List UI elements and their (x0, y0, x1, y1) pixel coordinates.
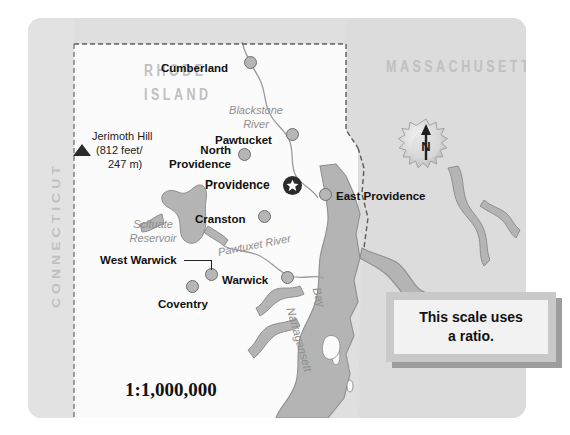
water-label-blackstone-river-line2: River (206, 118, 306, 131)
west-warwick-leader-line-vertical (211, 260, 212, 270)
water-label-blackstone-river-line1: Blackstone (206, 104, 306, 117)
city-label-north-providence-line1: North (175, 144, 231, 157)
map-screenshot: RHODE ISLAND MASSACHUSETTS CONNECTICUT J… (0, 0, 570, 435)
jerimoth-hill-label-line2: (812 feet/ (96, 144, 142, 158)
state-label-rhode-island-line2: ISLAND (144, 86, 212, 104)
city-dot-coventry[interactable] (186, 280, 199, 293)
water-label-scituate-reservoir-line1: Scituate (110, 218, 196, 231)
compass-rose-icon: N (398, 118, 454, 174)
city-label-providence: Providence (205, 179, 270, 193)
city-dot-cumberland[interactable] (244, 56, 257, 69)
state-label-connecticut: CONNECTICUT (50, 162, 63, 308)
jerimoth-hill-label-line1: Jerimoth Hill (92, 130, 153, 144)
city-dot-warwick[interactable] (281, 271, 294, 284)
city-label-warwick: Warwick (222, 274, 268, 287)
city-label-cumberland: Cumberland (161, 62, 228, 75)
city-label-coventry: Coventry (158, 298, 208, 311)
callout-body: This scale uses a ratio. (394, 300, 548, 354)
capital-marker-providence[interactable] (283, 176, 302, 195)
west-warwick-leader-line-horizontal (184, 260, 212, 261)
map-scale-ratio: 1:1,000,000 (125, 379, 217, 401)
city-label-north-providence-line2: Providence (151, 158, 231, 171)
city-label-cranston: Cranston (195, 213, 245, 226)
compass-rose: N (398, 118, 454, 174)
city-label-east-providence: East Providence (336, 190, 425, 203)
jerimoth-hill-peak-icon (73, 144, 91, 156)
city-dot-cranston[interactable] (258, 210, 271, 223)
callout-frame: This scale uses a ratio. (386, 292, 556, 362)
jerimoth-hill-label-line3: 247 m) (108, 158, 142, 172)
city-dot-east-providence[interactable] (319, 188, 332, 201)
svg-text:N: N (421, 139, 430, 154)
callout-text-line1: This scale uses (419, 308, 523, 327)
star-icon (286, 179, 299, 192)
water-label-scituate-reservoir-line2: Reservoir (110, 232, 196, 245)
city-dot-north-providence[interactable] (238, 148, 251, 161)
state-label-massachusetts: MASSACHUSETTS (386, 58, 526, 76)
callout-text-line2: a ratio. (419, 327, 523, 346)
city-label-west-warwick: West Warwick (100, 254, 177, 267)
callout-text: This scale uses a ratio. (419, 308, 523, 346)
